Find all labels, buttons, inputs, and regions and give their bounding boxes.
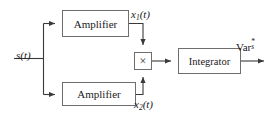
label-branch-bottom: x2(t) [134,99,153,112]
label-x2-arg: (t) [143,98,153,110]
wire-amp-top-out [129,24,143,46]
label-output-marks: *s [251,40,256,51]
block-diagram-canvas: Amplifier Amplifier × Integrator s(t) x1… [0,0,273,117]
label-branch-top: x1(t) [131,9,150,22]
label-x1-arg: (t) [140,8,150,20]
block-amplifier-top: Amplifier [62,10,129,37]
label-output-base: Var [236,41,251,53]
block-integrator: Integrator [178,48,241,74]
label-input-signal: s(t) [16,50,31,61]
label-output-variance: Var*s [236,40,256,53]
label-input-arg: (t) [20,49,30,61]
block-multiplier: × [134,52,152,70]
label-output-subscript: s [251,44,254,51]
block-amplifier-bottom: Amplifier [62,82,136,106]
wire-amp-bottom-out [136,77,143,95]
